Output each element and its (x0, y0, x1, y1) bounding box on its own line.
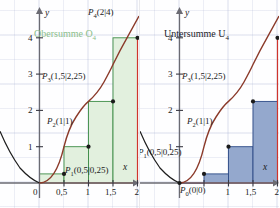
x-axis-name-left: x (123, 162, 127, 172)
y-tick-2-right: 2 (168, 105, 173, 115)
parabola-left-arm (0, 131, 40, 183)
x-tick-05-left: 0,5 (56, 187, 67, 197)
y-axis-name-left: y (45, 8, 49, 18)
x-tick-15-left: 1,5 (105, 187, 116, 197)
untersumme-title: Untersumme U4 (164, 28, 229, 42)
origin-label-left: 0 (33, 187, 38, 197)
x-tick-1-left: 1 (86, 187, 91, 197)
point-label-p2-left: P2(1|1) (47, 117, 73, 128)
point-label-p0-right: P0(0|0) (180, 186, 206, 197)
y-tick-4-left: 4 (28, 33, 33, 43)
point-label-p1-left: P1(0,5|0,25) (65, 166, 109, 177)
x-tick-2-right: 2 (275, 187, 280, 197)
y-tick-4-right: 4 (168, 33, 173, 43)
figure-root: Obersumme O4 y x 1 2 3 4 0 0,5 1 1,5 2 P… (0, 0, 279, 208)
y-tick-2-left: 2 (28, 105, 33, 115)
y-tick-3-left: 3 (28, 69, 33, 79)
x-tick-15-right: 1,5 (245, 187, 256, 197)
x-axis-name-right: x (263, 162, 267, 172)
y-tick-3-right: 3 (168, 69, 173, 79)
point-label-p3-left: P3(1,5|2,25) (42, 72, 86, 83)
point-label-p2-right: P2(1|1) (187, 117, 213, 128)
x-tick-1-right: 1 (226, 187, 231, 197)
y-tick-1-left: 1 (28, 142, 33, 152)
panel-obersumme: Obersumme O4 y x 1 2 3 4 0 0,5 1 1,5 2 P… (0, 0, 139, 208)
point-label-p1-right: P1(0,5|0,25) (140, 148, 182, 159)
obersumme-title: Obersumme O4 (34, 28, 96, 42)
point-label-p3-right: P3(1,5|2,25) (182, 72, 226, 83)
point-label-p4-left: P4(2|4) (88, 8, 114, 19)
panel-untersumme: Untersumme U4 y x 1 2 3 4 1 1,5 2 P0(0|0… (140, 0, 279, 208)
y-axis-name-right: y (185, 8, 189, 18)
